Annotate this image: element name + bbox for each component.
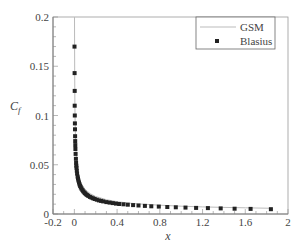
legend-label-gsm: GSM: [240, 21, 264, 33]
svg-text:0.15: 0.15: [30, 60, 50, 72]
svg-text:2: 2: [285, 216, 291, 228]
svg-text:0.1: 0.1: [35, 110, 49, 122]
svg-text:0.4: 0.4: [110, 216, 124, 228]
svg-text:0: 0: [44, 208, 50, 220]
cf-chart: -0.200.40.81.21.6200.050.10.150.2 x Cf G…: [0, 0, 303, 252]
svg-text:0.2: 0.2: [35, 11, 49, 23]
svg-text:0: 0: [72, 216, 78, 228]
y-axis-title: Cf: [10, 99, 22, 115]
legend-label-blasius: Blasius: [240, 35, 272, 47]
svg-text:1.6: 1.6: [238, 216, 252, 228]
svg-text:0.8: 0.8: [153, 216, 167, 228]
svg-text:1.2: 1.2: [196, 216, 210, 228]
x-axis-title: x: [164, 229, 171, 243]
legend-blasius-marker-icon: [215, 39, 219, 43]
legend: GSM Blasius: [196, 17, 275, 49]
svg-text:0.05: 0.05: [30, 159, 50, 171]
